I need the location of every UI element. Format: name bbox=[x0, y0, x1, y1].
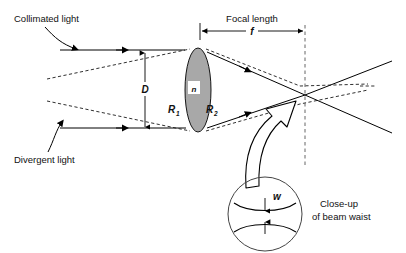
output-ray-upper-arrow bbox=[239, 66, 249, 71]
dashed-upper-incoming bbox=[47, 49, 190, 79]
closeup-caption: Close-up of beam waist bbox=[312, 198, 371, 222]
converging-output-rays bbox=[207, 52, 392, 133]
diagram-canvas: n R 1 R 2 Focal length f bbox=[0, 0, 406, 253]
dashed-source-cone bbox=[47, 49, 190, 131]
refractive-index-label: n bbox=[192, 85, 197, 94]
closeup-caption-line2: of beam waist bbox=[312, 211, 371, 222]
focal-length-label: Focal length bbox=[226, 13, 278, 24]
beam-waist-pointer-arrow bbox=[246, 101, 296, 188]
dashed-output-upper bbox=[206, 49, 368, 86]
output-ray-lower bbox=[207, 61, 392, 128]
focal-length-dimension: Focal length f bbox=[200, 13, 303, 40]
closeup-caption-line1: Close-up bbox=[320, 198, 358, 209]
aperture-dimension: D bbox=[141, 53, 148, 127]
closeup-circle-frame bbox=[228, 177, 302, 251]
beam-waist-label: w bbox=[273, 191, 282, 202]
radius1-label: R bbox=[168, 104, 176, 115]
aperture-label: D bbox=[141, 84, 148, 95]
output-ray-upper bbox=[207, 52, 392, 133]
lens-group: n bbox=[185, 48, 211, 132]
beam-waist-closeup: w bbox=[228, 177, 302, 251]
divergent-light-label: Divergent light bbox=[14, 154, 75, 165]
focal-length-symbol: f bbox=[250, 26, 255, 37]
collimated-light-callout-arrow bbox=[45, 27, 76, 49]
radius1-subscript: 1 bbox=[176, 110, 180, 117]
output-ray-lower-arrow bbox=[239, 113, 249, 117]
radius2-label: R bbox=[206, 104, 214, 115]
dashed-output-cone bbox=[206, 49, 376, 131]
radius2-subscript: 2 bbox=[213, 110, 218, 117]
optics-diagram: n R 1 R 2 Focal length f bbox=[0, 0, 406, 253]
collimated-light-label: Collimated light bbox=[14, 13, 79, 24]
divergent-light-callout-arrow bbox=[48, 122, 62, 152]
collimated-light-callout: Collimated light bbox=[14, 13, 79, 49]
